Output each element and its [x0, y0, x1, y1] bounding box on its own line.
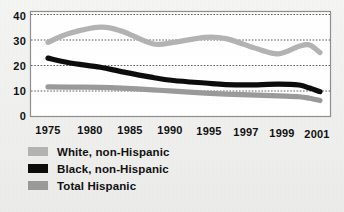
legend-label-total-hispanic: Total Hispanic — [57, 180, 136, 192]
legend-swatch-white-non-hispanic — [28, 147, 48, 156]
legend-swatch-black-non-hispanic — [28, 164, 48, 173]
chart-legend: White, non-Hispanic Black, non-Hispanic … — [28, 143, 288, 194]
legend-item-total-hispanic: Total Hispanic — [28, 177, 288, 194]
legend-item-black-non-hispanic: Black, non-Hispanic — [28, 160, 288, 177]
legend-item-white-non-hispanic: White, non-Hispanic — [28, 143, 288, 160]
legend-label-black-non-hispanic: Black, non-Hispanic — [57, 163, 169, 175]
legend-label-white-non-hispanic: White, non-Hispanic — [57, 146, 169, 158]
chart-figure: 40 30 20 10 0 1975 1980 1985 1990 1995 1… — [0, 0, 344, 212]
legend-swatch-total-hispanic — [28, 181, 48, 190]
